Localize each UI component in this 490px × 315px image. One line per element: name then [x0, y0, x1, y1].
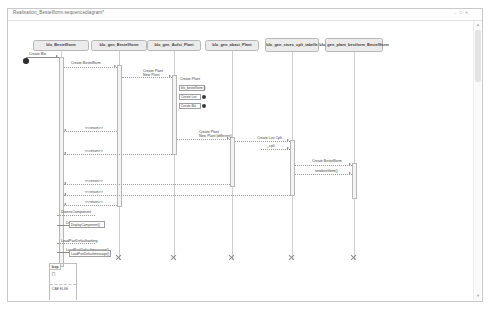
message-label-m13: <<return>> — [85, 190, 103, 194]
scroll-down-icon[interactable]: ▼ — [474, 292, 482, 300]
message-label-m17: LoadPartDefaultsetting — [61, 239, 98, 243]
lifeline-header-4[interactable]: blo_gen_abast_Plant — [205, 40, 259, 51]
fragment-alt-label: CAB ELSE — [52, 287, 68, 291]
lifeline-header-1[interactable]: blo_Bestellform — [33, 40, 89, 51]
vertical-scrollbar[interactable]: ▲ ▼ — [473, 21, 481, 300]
fragment-guard-label: [*] — [52, 272, 55, 276]
message-label-m15: DatensComponent — [61, 210, 91, 214]
message-arrowhead-m2 — [114, 65, 116, 67]
maximize-icon[interactable]: □ — [460, 11, 462, 15]
activation-bar-4[interactable] — [230, 137, 235, 187]
lifeline-header-5[interactable]: blo_gen_stuec_cplt_tabelle — [265, 38, 319, 52]
message-line-m13[interactable] — [64, 195, 290, 196]
lifeline-label: blo_gen_Bestellform — [99, 43, 140, 48]
message-line-m11[interactable] — [64, 154, 172, 155]
editor-window: Realisation_Bestellform.sequencediagram*… — [7, 8, 483, 302]
message-arrowhead-m8 — [349, 163, 351, 165]
note-box-1[interactable]: blo_bestellform () — [179, 85, 205, 91]
window-controls: – □ ✕ — [454, 11, 468, 15]
destruction-marker-5 — [350, 254, 357, 261]
message-label-m11: <<return>> — [85, 149, 103, 153]
message-line-m2[interactable] — [64, 67, 117, 68]
message-arrowhead-m12 — [64, 182, 66, 184]
combined-fragment[interactable]: loop[*]CAB ELSE — [49, 263, 77, 300]
diagram-canvas[interactable]: blo_Bestellformblo_gen_Bestellformblo_ge… — [9, 21, 472, 300]
lifeline-header-3[interactable]: blo_gen_Aufst_Plant — [147, 40, 201, 51]
message-label-m14: <<return>> — [85, 200, 103, 204]
message-label-m4: Create Plant — [180, 77, 200, 81]
lifeline-label: blo_gen_Aufst_Plant — [153, 43, 194, 48]
message-line-m9[interactable] — [295, 174, 352, 175]
message-label-m8: Create Bestellform — [312, 159, 342, 163]
lifeline-label: blo_gen_stuec_cplt_tabelle — [265, 43, 318, 48]
scrollbar-thumb[interactable] — [475, 30, 481, 82]
lifeline-label: blo_gen_abast_Plant — [211, 43, 252, 48]
message-endpoint-dot — [202, 104, 206, 108]
message-label-m6: Create List Cplt — [257, 136, 282, 140]
scroll-up-icon[interactable]: ▲ — [474, 21, 482, 29]
found-message-start-dot — [23, 58, 29, 64]
note-box-label: blo_bestellform () — [181, 86, 206, 90]
message-line-m14[interactable] — [64, 205, 117, 206]
fragment-divider — [50, 284, 76, 285]
message-arrowhead-m9 — [349, 172, 351, 174]
message-line-m8[interactable] — [295, 165, 352, 166]
diagram-editor-root: Realisation_Bestellform.sequencediagram*… — [0, 0, 490, 315]
activation-bar-2[interactable] — [117, 65, 122, 207]
message-label-m9: newbestform() — [315, 169, 338, 173]
destruction-marker-1 — [115, 254, 122, 261]
message-label-m5: Create Plant New Plant (different) — [199, 130, 232, 138]
note-box-label: DisplayComponent() — [71, 223, 100, 227]
note-box-2[interactable]: Create List — [179, 94, 201, 100]
minimize-icon[interactable]: – — [454, 11, 456, 15]
activation-bar-1[interactable] — [59, 57, 64, 267]
message-arrowhead-m6 — [287, 139, 289, 141]
message-line-m7[interactable] — [261, 149, 290, 150]
destruction-marker-2 — [170, 254, 177, 261]
message-label-m2: Create Bestellform — [71, 61, 101, 65]
message-arrowhead-m7 — [287, 147, 289, 149]
activation-bar-6[interactable] — [352, 163, 357, 199]
message-arrowhead-m10 — [64, 129, 66, 131]
message-label-m10: <<return>> — [85, 126, 103, 130]
message-label-m1: Create Blo — [29, 52, 46, 56]
window-title: Realisation_Bestellform.sequencediagram* — [13, 10, 104, 15]
note-box-label: LoadPartDefaultmessage() — [71, 252, 109, 256]
close-icon[interactable]: ✕ — [465, 11, 468, 15]
window-titlebar: Realisation_Bestellform.sequencediagram*… — [8, 9, 482, 21]
note-box-label: Create Blo — [181, 104, 196, 108]
message-endpoint-dot — [202, 95, 206, 99]
note-box-4[interactable]: DisplayComponent() — [69, 221, 105, 228]
message-line-m10[interactable] — [64, 131, 117, 132]
destruction-marker-4 — [288, 254, 295, 261]
note-box-label: Create List — [181, 95, 196, 99]
message-label-m3: Create Plant New Plant — [143, 69, 163, 77]
message-arrowhead-m13 — [64, 193, 66, 195]
lifeline-ll6 — [354, 52, 355, 260]
fragment-operator-label: loop — [51, 265, 58, 269]
message-line-m12[interactable] — [64, 184, 230, 185]
message-arrowhead-m1 — [56, 55, 58, 57]
message-arrowhead-m11 — [64, 152, 66, 154]
message-arrowhead-m14 — [64, 203, 66, 205]
message-line-m15[interactable] — [57, 215, 95, 216]
message-line-m5[interactable] — [177, 139, 230, 140]
lifeline-header-2[interactable]: blo_gen_Bestellform — [91, 40, 147, 51]
lifeline-header-6[interactable]: blo_gen_plant_bestform_Bestellform — [325, 38, 383, 52]
destruction-marker-3 — [228, 254, 235, 261]
message-arrowhead-m3 — [169, 75, 171, 77]
lifeline-label: blo_gen_plant_bestform_Bestellform — [318, 43, 389, 48]
fragment-operator-tab: loop — [50, 264, 61, 270]
note-box-3[interactable]: Create Blo — [179, 103, 201, 109]
message-line-m6[interactable] — [235, 141, 290, 142]
message-line-m1[interactable] — [26, 57, 59, 58]
lifeline-label: blo_Bestellform — [45, 43, 77, 48]
activation-bar-3[interactable] — [172, 75, 177, 155]
message-label-m12: <<return>> — [85, 179, 103, 183]
activation-bar-5[interactable] — [290, 140, 295, 196]
note-box-5[interactable]: LoadPartDefaultmessage() — [69, 250, 111, 257]
message-label-m7: _cplt — [267, 144, 275, 148]
